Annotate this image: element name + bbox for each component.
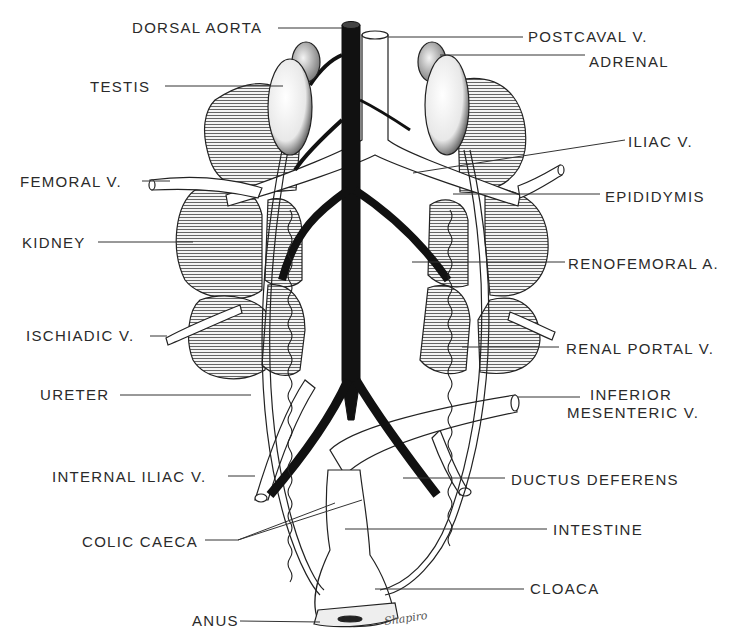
label-renal-portal-v: RENAL PORTAL V. bbox=[566, 341, 714, 357]
label-colic-caeca: COLIC CAECA bbox=[82, 534, 198, 550]
label-renofemoral-a: RENOFEMORAL A. bbox=[568, 256, 719, 272]
label-testis: TESTIS bbox=[90, 79, 150, 95]
label-inferior-mesenteric-v-line2: MESENTERIC V. bbox=[567, 405, 699, 421]
label-ureter: URETER bbox=[40, 387, 109, 403]
anatomy-diagram: DORSAL AORTA TESTIS FEMORAL V. KIDNEY IS… bbox=[0, 0, 746, 640]
label-anus: ANUS bbox=[192, 613, 239, 629]
label-intestine: INTESTINE bbox=[553, 522, 643, 538]
label-adrenal: ADRENAL bbox=[589, 54, 669, 70]
label-epididymis: EPIDIDYMIS bbox=[605, 189, 705, 205]
label-cloaca: CLOACA bbox=[530, 581, 600, 597]
label-inferior-mesenteric-v-line1: INFERIOR bbox=[590, 387, 672, 403]
label-ductus-deferens: DUCTUS DEFERENS bbox=[511, 472, 679, 488]
label-dorsal-aorta: DORSAL AORTA bbox=[132, 20, 262, 36]
intestine-and-mesenteric bbox=[314, 395, 519, 627]
label-internal-iliac-v: INTERNAL ILIAC V. bbox=[52, 469, 206, 485]
label-femoral-v: FEMORAL V. bbox=[20, 174, 122, 190]
label-postcaval-v: POSTCAVAL V. bbox=[528, 29, 648, 45]
label-iliac-v: ILIAC V. bbox=[628, 134, 693, 150]
label-ischiadic-v: ISCHIADIC V. bbox=[26, 328, 134, 344]
label-kidney: KIDNEY bbox=[22, 235, 86, 251]
